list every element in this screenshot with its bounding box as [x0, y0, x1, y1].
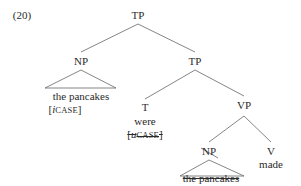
node-tp-root: TP	[132, 9, 145, 21]
v-word: made	[259, 158, 283, 170]
bracket-close: ]	[78, 103, 82, 115]
t-word: were	[134, 115, 155, 127]
node-t: T	[142, 101, 149, 113]
node-vp: VP	[237, 99, 251, 111]
feature-name: CASE	[136, 130, 159, 140]
node-np-object: NP	[202, 145, 216, 157]
subject-feature: [iCASE]	[49, 103, 82, 116]
tree-branches	[0, 0, 301, 186]
example-number: (20)	[13, 9, 31, 21]
node-v: V	[267, 145, 275, 157]
node-tp-bar: TP	[189, 55, 202, 67]
node-np-subject: NP	[74, 55, 88, 67]
t-feature: [uCASE]	[127, 128, 162, 141]
bracket-close: ]	[159, 128, 163, 140]
feature-name: CASE	[55, 105, 78, 115]
object-text: the pancakes	[183, 172, 240, 184]
subject-text: the pancakes	[53, 90, 110, 102]
